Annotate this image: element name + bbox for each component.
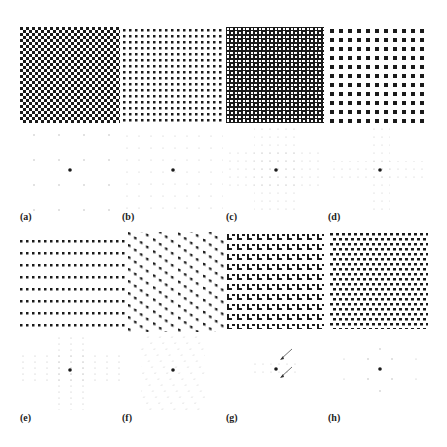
panel-b-pattern: [123, 29, 223, 123]
panel-g-diffraction: [226, 335, 324, 410]
panel-a-pattern: [20, 27, 120, 123]
panel-h-label: (h): [328, 412, 340, 423]
panel-c-pattern: [226, 27, 324, 123]
panel-a-label: (a): [20, 211, 32, 222]
panel-c-diffraction: [226, 125, 324, 215]
panel-a-diffraction: [20, 125, 120, 215]
panel-d-diffraction: [330, 125, 428, 215]
panel-f-label: (f): [122, 412, 132, 423]
panel-d-label: (d): [328, 211, 340, 222]
panel-e-pattern: [20, 240, 128, 332]
panel-b-diffraction: [123, 125, 223, 215]
panel-d-pattern: [330, 29, 428, 123]
panel-f-diffraction: [123, 335, 223, 410]
panel-f-pattern: [128, 232, 224, 332]
panel-e-label: (e): [20, 412, 31, 423]
panel-h-pattern: [330, 233, 428, 329]
panel-e-diffraction: [20, 335, 120, 410]
panel-g-label: (g): [226, 412, 238, 423]
panel-h-diffraction: [330, 335, 428, 410]
panel-b-label: (b): [122, 211, 134, 222]
panel-c-label: (c): [226, 211, 237, 222]
panel-g-pattern: [226, 233, 324, 329]
